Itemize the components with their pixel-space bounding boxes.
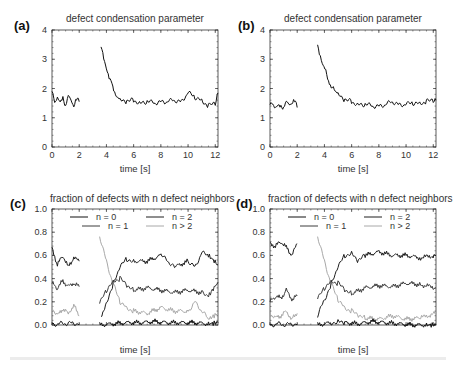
legend-item: n > 2 <box>364 221 410 231</box>
svg-text:6: 6 <box>349 150 354 160</box>
svg-text:0: 0 <box>42 142 47 152</box>
svg-text:n = 1: n = 1 <box>108 221 128 231</box>
svg-text:0.4: 0.4 <box>34 274 47 284</box>
svg-text:4: 4 <box>104 328 109 330</box>
svg-text:8: 8 <box>158 328 163 330</box>
panel-c: (c) fraction of defects with n defect ne… <box>0 180 228 346</box>
panel-d: (d) fraction of defects with n defect ne… <box>228 180 457 346</box>
plot-area: 0246810120.00.20.40.60.81.0n = 0n = 1n =… <box>0 180 228 330</box>
legend-item: n > 2 <box>146 221 192 231</box>
svg-text:3: 3 <box>42 54 47 64</box>
legend: n = 0n = 1n = 2n > 2 <box>70 212 192 231</box>
svg-text:10: 10 <box>183 328 193 330</box>
svg-text:3: 3 <box>260 54 265 64</box>
panel-b: (b) defect condensation parameter 024681… <box>228 0 457 180</box>
legend-item: n = 1 <box>82 221 128 231</box>
svg-text:6: 6 <box>131 328 136 330</box>
plot-area: 02468101201234 <box>228 0 457 160</box>
svg-text:n > 2: n > 2 <box>390 221 410 231</box>
svg-text:4: 4 <box>104 150 109 160</box>
svg-text:4: 4 <box>322 328 327 330</box>
svg-text:2: 2 <box>77 150 82 160</box>
svg-text:0: 0 <box>260 142 265 152</box>
svg-text:0: 0 <box>267 328 272 330</box>
svg-text:4: 4 <box>322 150 327 160</box>
svg-text:2: 2 <box>295 328 300 330</box>
svg-text:0.2: 0.2 <box>252 297 265 307</box>
svg-text:4: 4 <box>260 25 265 35</box>
svg-text:12: 12 <box>428 328 438 330</box>
svg-text:0.2: 0.2 <box>34 297 47 307</box>
svg-text:0.4: 0.4 <box>252 274 265 284</box>
svg-text:1.0: 1.0 <box>34 204 47 214</box>
svg-text:6: 6 <box>131 150 136 160</box>
svg-text:0: 0 <box>49 150 54 160</box>
svg-text:10: 10 <box>183 150 193 160</box>
x-axis-label: time [s] <box>52 163 218 174</box>
svg-text:12: 12 <box>210 328 220 330</box>
svg-text:0.0: 0.0 <box>34 320 47 330</box>
x-axis-label: time [s] <box>270 163 436 174</box>
svg-text:1: 1 <box>42 113 47 123</box>
svg-text:2: 2 <box>42 84 47 94</box>
svg-text:1.0: 1.0 <box>252 204 265 214</box>
svg-text:0.8: 0.8 <box>34 227 47 237</box>
figure-caption <box>8 354 448 363</box>
svg-text:0.8: 0.8 <box>252 227 265 237</box>
svg-text:0: 0 <box>49 328 54 330</box>
svg-text:8: 8 <box>158 150 163 160</box>
svg-text:2: 2 <box>77 328 82 330</box>
svg-text:0.6: 0.6 <box>34 250 47 260</box>
svg-text:12: 12 <box>210 150 220 160</box>
caption-placeholder <box>8 354 448 363</box>
svg-text:8: 8 <box>376 328 381 330</box>
svg-text:8: 8 <box>376 150 381 160</box>
panel-a: (a) defect condensation parameter 024681… <box>0 0 228 180</box>
svg-text:10: 10 <box>401 150 411 160</box>
legend: n = 0n = 1n = 2n > 2 <box>288 212 410 231</box>
svg-text:2: 2 <box>295 150 300 160</box>
svg-text:n > 2: n > 2 <box>172 221 192 231</box>
svg-text:0.0: 0.0 <box>252 320 265 330</box>
svg-text:10: 10 <box>401 328 411 330</box>
svg-text:0.6: 0.6 <box>252 250 265 260</box>
svg-text:12: 12 <box>428 150 438 160</box>
plot-area: 02468101201234 <box>0 0 228 160</box>
svg-text:1: 1 <box>260 113 265 123</box>
legend-item: n = 1 <box>300 221 346 231</box>
svg-text:6: 6 <box>349 328 354 330</box>
svg-text:2: 2 <box>260 84 265 94</box>
plot-area: 0246810120.00.20.40.60.81.0n = 0n = 1n =… <box>228 180 457 330</box>
svg-text:4: 4 <box>42 25 47 35</box>
svg-text:n = 1: n = 1 <box>326 221 346 231</box>
svg-text:0: 0 <box>267 150 272 160</box>
